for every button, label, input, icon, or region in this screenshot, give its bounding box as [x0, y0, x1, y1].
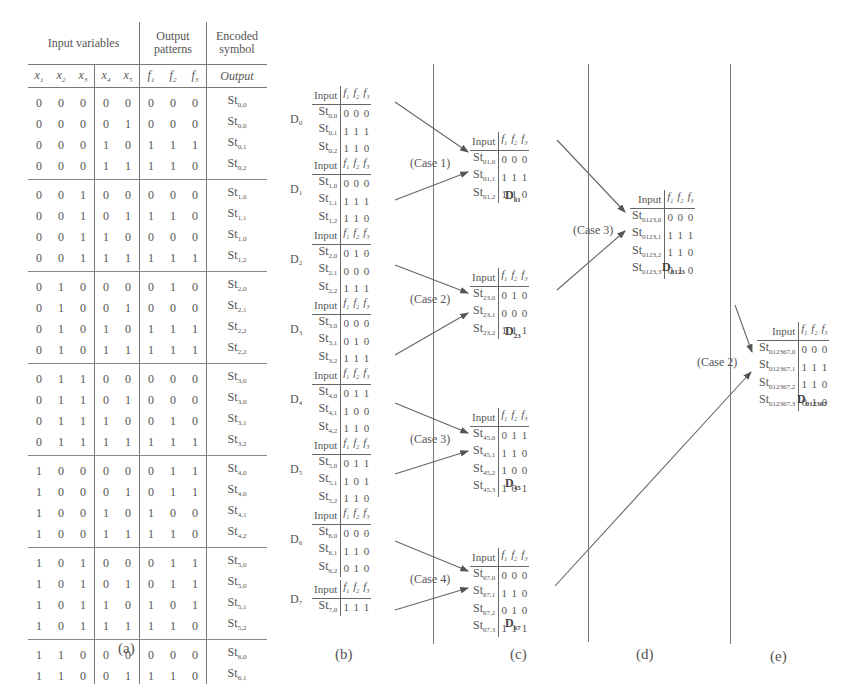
- panel-label-a: (a): [118, 640, 135, 657]
- panel-label-e: (e): [770, 648, 787, 665]
- arrow-d4-to-d45: [395, 403, 468, 433]
- arrows-layer: [0, 0, 867, 684]
- arrow-d01-to-d0123: [557, 140, 625, 212]
- arrow-d0123-to-d012367: [735, 305, 752, 352]
- arrow-d6-to-d67: [395, 541, 468, 571]
- arrow-d23-to-d0123: [557, 231, 625, 290]
- panel-label-b: (b): [335, 646, 353, 663]
- arrow-d2-to-d23: [395, 265, 468, 293]
- arrow-d7-to-d67: [395, 588, 468, 610]
- arrow-d67-to-d012367: [555, 372, 751, 586]
- panel-label-c: (c): [510, 646, 527, 663]
- arrow-d5-to-d45: [395, 451, 468, 474]
- arrow-d3-to-d23: [395, 313, 468, 355]
- panel-label-d: (d): [636, 646, 654, 663]
- arrow-d1-to-d01: [395, 172, 468, 200]
- arrow-d0-to-d01: [395, 102, 468, 152]
